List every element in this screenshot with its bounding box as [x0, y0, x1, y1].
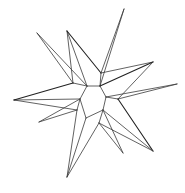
- edge-T2-H: [67, 31, 101, 73]
- edge-T8-J: [67, 123, 99, 177]
- edge-F-A: [80, 86, 87, 99]
- edge-E-F: [80, 99, 86, 118]
- edge-T1-A: [37, 33, 87, 86]
- edge-T1-G: [37, 33, 73, 83]
- edge-C-I: [106, 97, 118, 99]
- edge-T10-F: [39, 99, 80, 122]
- star-polyhedron-drawing: [0, 0, 185, 193]
- edge-T8-E: [67, 118, 86, 177]
- edge-T4-H: [101, 62, 153, 73]
- edge-C-D: [103, 97, 106, 110]
- polyhedron-edges: [14, 9, 177, 177]
- edge-T9-G: [14, 83, 73, 100]
- edge-T3-B: [100, 9, 124, 86]
- edge-T4-B: [100, 62, 153, 86]
- edge-B-C: [100, 86, 106, 97]
- edge-T3-H: [101, 9, 124, 73]
- edge-T5-I: [118, 84, 177, 99]
- edge-T9-F: [14, 99, 80, 100]
- edge-T9-K: [14, 100, 77, 110]
- edge-T6-J: [99, 123, 153, 151]
- edge-T5-C: [106, 84, 177, 97]
- edge-T8-K: [67, 110, 77, 177]
- edge-T6-D: [103, 110, 153, 151]
- edge-D-E: [86, 110, 103, 118]
- edge-T6-I: [118, 99, 153, 151]
